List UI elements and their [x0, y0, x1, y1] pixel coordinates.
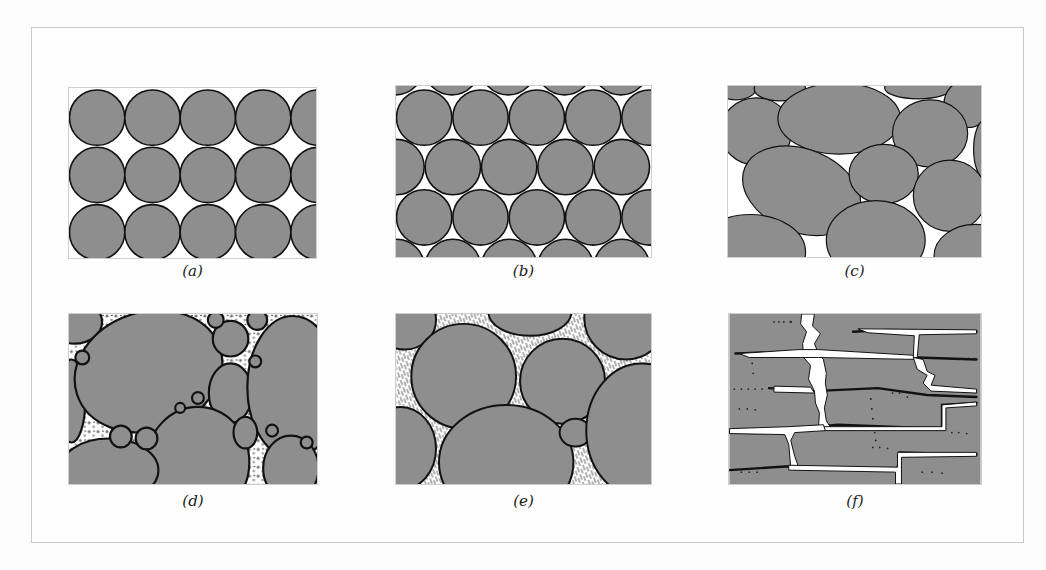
panel-a-label: (a)	[68, 262, 317, 280]
panel-b-label: (b)	[395, 262, 652, 280]
panel-b-hexagonal-packing	[395, 85, 652, 258]
panel-a-cubic-packing	[68, 87, 317, 259]
hexagonal-packing-grains	[396, 86, 651, 257]
matrix-grains	[69, 314, 317, 484]
cemented-grains	[396, 314, 651, 484]
rounded-grains	[728, 86, 981, 257]
panel-e-label: (e)	[395, 492, 652, 510]
panel-d-label: (d)	[68, 492, 318, 510]
panel-c-rounded-grains	[727, 85, 982, 258]
panel-f-label: (f)	[728, 492, 982, 510]
panel-c-label: (c)	[727, 262, 982, 280]
fracture-network	[729, 314, 981, 484]
panel-e-cemented-grains	[395, 313, 652, 485]
cubic-packing-grains	[69, 88, 316, 258]
panel-f-fractured-rock	[728, 313, 982, 485]
panel-d-grains-with-matrix	[68, 313, 318, 485]
